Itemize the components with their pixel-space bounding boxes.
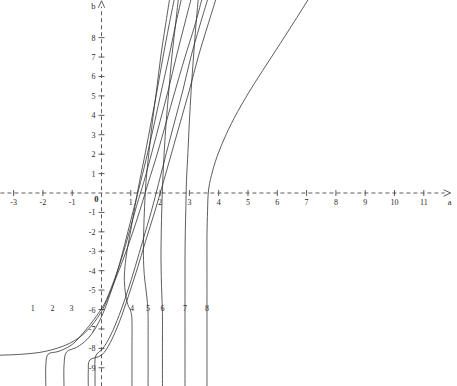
x-tick-label: 9 [363, 198, 367, 207]
y-tick-label: 4 [92, 111, 96, 120]
axes-group [0, 1, 450, 386]
x-tick-label: -1 [69, 198, 76, 207]
x-tick-label: -2 [40, 198, 47, 207]
y-tick-label: -2 [89, 228, 96, 237]
curve-label: 7 [183, 304, 187, 313]
y-tick-label: 3 [92, 131, 96, 140]
origin-label: 0 [94, 194, 98, 204]
x-axis-arrowhead [444, 190, 451, 196]
tick-labels-group: -3-2-1123456789101187654321-1-2-3-4-5-6-… [10, 1, 451, 373]
y-tick-label: -4 [89, 267, 96, 276]
x-tick-label: -3 [10, 198, 17, 207]
y-axis-label: b [91, 1, 95, 11]
y-tick-label: -6 [89, 306, 96, 315]
plot-canvas: -3-2-1123456789101187654321-1-2-3-4-5-6-… [0, 0, 457, 386]
y-tick-label: -9 [89, 364, 96, 373]
x-axis-label: a [448, 197, 452, 207]
x-tick-label: 4 [217, 198, 221, 207]
curve-label: 8 [205, 304, 209, 313]
y-axis-arrowhead [98, 1, 104, 8]
curve-label: 3 [70, 304, 74, 313]
y-tick-label: 6 [92, 72, 96, 81]
y-tick-label: 1 [92, 170, 96, 179]
curve-label: 4 [130, 304, 134, 313]
curve-label: 1 [31, 304, 35, 313]
chart-svg: -3-2-1123456789101187654321-1-2-3-4-5-6-… [0, 0, 457, 386]
curve-8 [207, 0, 308, 386]
curve-label: 2 [51, 304, 55, 313]
y-tick-label: -5 [89, 286, 96, 295]
curve-label: 6 [160, 304, 164, 313]
y-tick-label: -3 [89, 247, 96, 256]
x-tick-label: 5 [246, 198, 250, 207]
y-tick-label: 8 [92, 34, 96, 43]
y-tick-label: -7 [89, 325, 96, 334]
y-tick-label: 5 [92, 92, 96, 101]
x-tick-label: 8 [334, 198, 338, 207]
y-tick-label: 2 [92, 150, 96, 159]
curve-label: 5 [146, 304, 150, 313]
x-tick-label: 10 [391, 198, 399, 207]
curve-labels-group: 12345678 [31, 304, 209, 313]
x-tick-label: 11 [420, 198, 428, 207]
x-tick-label: 6 [275, 198, 279, 207]
x-tick-label: 2 [158, 198, 162, 207]
y-tick-label: -1 [89, 208, 96, 217]
x-tick-label: 3 [187, 198, 191, 207]
y-tick-label: 7 [92, 53, 96, 62]
x-tick-label: 7 [305, 198, 309, 207]
y-tick-label: -8 [89, 344, 96, 353]
x-tick-label: 1 [129, 198, 133, 207]
